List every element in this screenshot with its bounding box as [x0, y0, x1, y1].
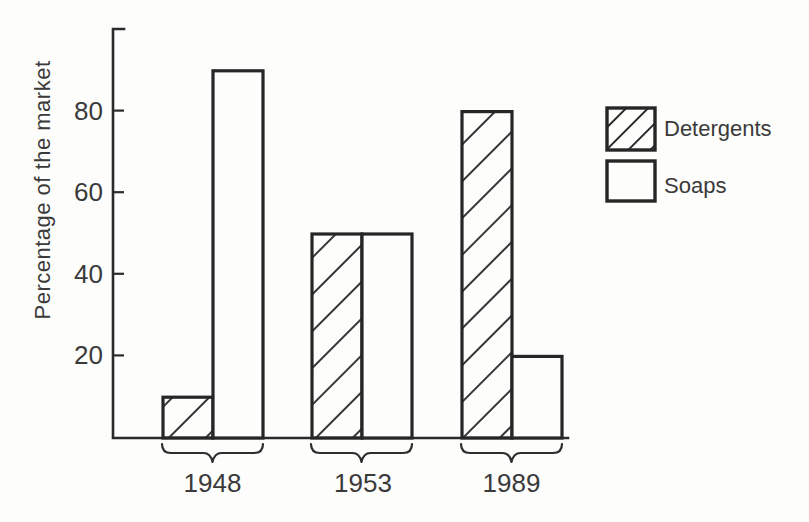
underbrace-1953: [311, 444, 412, 462]
bar-soaps-1948: [213, 71, 263, 438]
y-tick-label-40: 40: [74, 259, 103, 289]
y-tick-label-20: 20: [74, 340, 103, 370]
underbrace-1948: [162, 444, 263, 462]
bar-detergents-1953: [312, 234, 362, 438]
bar-soaps-1953: [362, 234, 412, 438]
chart-figure: 80 60 40 20 Percentage of the market 194…: [0, 0, 809, 522]
bars-group: [163, 71, 562, 438]
legend-soaps-label: Soaps: [664, 173, 726, 198]
x-category-label-1948: 1948: [184, 468, 242, 498]
x-category-label-1953: 1953: [334, 468, 392, 498]
y-tick-label-80: 80: [74, 96, 103, 126]
legend-soaps-swatch-icon: [607, 161, 655, 201]
legend-detergents-swatch-icon: [607, 108, 655, 150]
bar-soaps-1989: [512, 356, 562, 438]
y-axis-ticks: [113, 111, 124, 356]
legend-detergents-label: Detergents: [664, 116, 772, 141]
x-category-label-1989: 1989: [483, 468, 541, 498]
bar-detergents-1989: [462, 112, 512, 438]
bar-chart-canvas: 80 60 40 20 Percentage of the market 194…: [0, 0, 809, 522]
underbrace-1989: [461, 444, 562, 462]
legend: Detergents Soaps: [607, 108, 772, 201]
y-tick-label-60: 60: [74, 177, 103, 207]
bar-detergents-1948: [163, 397, 213, 438]
y-axis-title: Percentage of the market: [30, 60, 55, 319]
